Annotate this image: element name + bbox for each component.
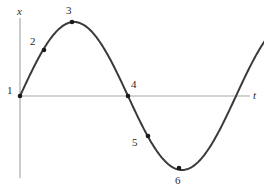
sine-curve-figure: x t 1 2 3 4 5 6 <box>0 0 264 191</box>
axes-group <box>20 18 250 178</box>
point-label-4: 4 <box>131 79 137 90</box>
plot-area <box>0 0 264 191</box>
data-point-marker-6 <box>177 166 182 171</box>
data-point-marker-1 <box>18 94 23 99</box>
point-label-3: 3 <box>66 5 72 16</box>
point-label-5: 5 <box>132 137 138 148</box>
y-axis-label: x <box>17 6 22 17</box>
data-point-marker-2 <box>42 48 47 53</box>
t-axis-label: t <box>253 90 256 101</box>
point-label-1: 1 <box>7 85 13 96</box>
data-point-marker-4 <box>126 94 131 99</box>
data-point-marker-3 <box>70 20 75 25</box>
point-label-2: 2 <box>30 36 36 47</box>
point-label-6: 6 <box>175 175 181 186</box>
data-point-marker-5 <box>146 134 151 139</box>
